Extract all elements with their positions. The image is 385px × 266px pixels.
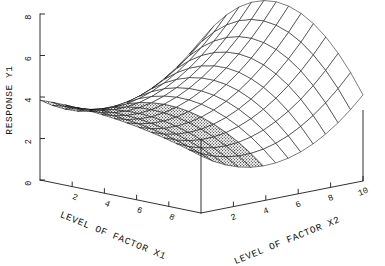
x2-axis-tick-label: 10 bbox=[357, 186, 370, 199]
x2-axis-tick-label: 4 bbox=[262, 206, 271, 217]
x2-axis-title: LEVEL OF FACTOR X2 bbox=[232, 214, 341, 266]
surface-plot-canvas: 02468RESPONSE Y12468LEVEL OF FACTOR X124… bbox=[0, 0, 385, 266]
z-axis-tick-label: 4 bbox=[24, 98, 34, 103]
z-axis-tick-label: 2 bbox=[24, 139, 34, 144]
surface-mesh bbox=[40, 1, 363, 168]
x1-axis-tick-label: 2 bbox=[71, 192, 80, 203]
x2-axis-tick-label: 2 bbox=[229, 212, 238, 223]
x2-axis-tick-label: 8 bbox=[327, 193, 336, 204]
x1-axis-title: LEVEL OF FACTOR X1 bbox=[58, 209, 167, 262]
z-axis-title: RESPONSE Y1 bbox=[4, 65, 15, 134]
x2-axis-tick-label: 6 bbox=[294, 199, 303, 210]
x1-axis-tick-label: 4 bbox=[103, 199, 112, 210]
z-axis-tick-label: 8 bbox=[24, 15, 34, 20]
surface-plot-figure: 02468RESPONSE Y12468LEVEL OF FACTOR X124… bbox=[0, 0, 385, 266]
z-axis-tick-label: 6 bbox=[24, 56, 34, 61]
x1-axis-tick-label: 8 bbox=[167, 212, 176, 223]
x2-axis-line bbox=[201, 181, 363, 213]
x1-axis-line bbox=[40, 180, 201, 213]
x1-axis-tick-label: 6 bbox=[135, 205, 144, 216]
z-axis-tick-label: 0 bbox=[24, 181, 34, 186]
